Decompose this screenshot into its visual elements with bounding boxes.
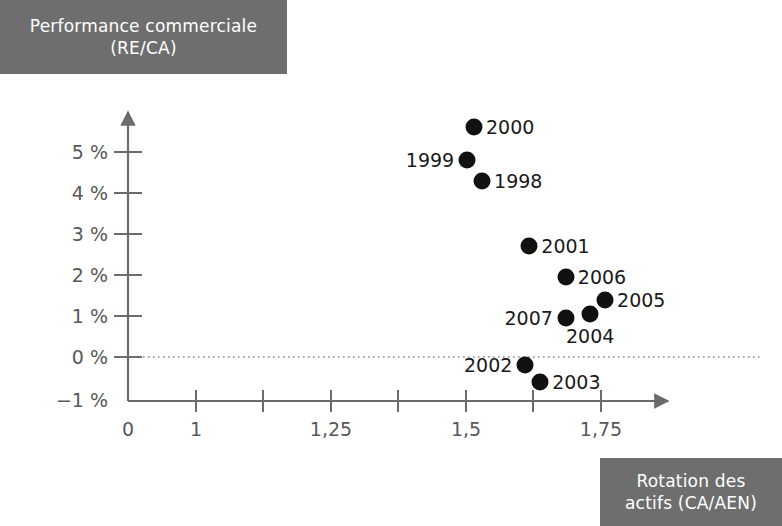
data-point-2003[interactable] bbox=[532, 373, 549, 390]
y-tick-label-1: 1 % bbox=[48, 305, 108, 327]
data-point-2006[interactable] bbox=[557, 269, 574, 286]
data-point-label-2001: 2001 bbox=[541, 235, 589, 257]
y-tick-label-4: 4 % bbox=[48, 182, 108, 204]
x-tick-label-1-25: 1,25 bbox=[310, 418, 352, 440]
data-point-label-2004: 2004 bbox=[566, 325, 614, 347]
data-point-2000[interactable] bbox=[465, 119, 482, 136]
scatter-plot: 5 % 4 % 3 % 2 % 1 % 0 % −1 % 0 1 1,25 1,… bbox=[0, 0, 782, 526]
x-tick-label-1: 1 bbox=[190, 418, 202, 440]
y-tick-label-5: 5 % bbox=[48, 141, 108, 163]
x-axis-title-line-1: Rotation des bbox=[636, 470, 745, 492]
x-tick-label-1-75: 1,75 bbox=[580, 418, 622, 440]
data-point-2001[interactable] bbox=[521, 238, 538, 255]
data-point-2004[interactable] bbox=[582, 305, 599, 322]
data-point-label-2007: 2007 bbox=[505, 307, 553, 329]
data-point-2005[interactable] bbox=[597, 291, 614, 308]
data-point-label-1999: 1999 bbox=[406, 149, 454, 171]
x-tick-label-0: 0 bbox=[122, 418, 134, 440]
data-point-1998[interactable] bbox=[474, 172, 491, 189]
y-tick-label-2: 2 % bbox=[48, 264, 108, 286]
y-tick-label-minus-1: −1 % bbox=[40, 389, 108, 411]
data-point-label-2000: 2000 bbox=[486, 116, 534, 138]
data-point-label-2003: 2003 bbox=[552, 371, 600, 393]
data-point-label-2005: 2005 bbox=[617, 289, 665, 311]
x-axis-title-line-2: actifs (CA/AEN) bbox=[625, 492, 757, 514]
data-point-2007[interactable] bbox=[557, 310, 574, 327]
x-axis-title-box: Rotation des actifs (CA/AEN) bbox=[600, 458, 782, 526]
y-tick-label-3: 3 % bbox=[48, 223, 108, 245]
y-tick-label-0: 0 % bbox=[48, 346, 108, 368]
data-point-label-1998: 1998 bbox=[494, 170, 542, 192]
x-tick-label-1-5: 1,5 bbox=[451, 418, 481, 440]
data-point-2002[interactable] bbox=[517, 357, 534, 374]
data-point-1999[interactable] bbox=[459, 152, 476, 169]
data-point-label-2002: 2002 bbox=[464, 354, 512, 376]
data-point-label-2006: 2006 bbox=[578, 266, 626, 288]
plot-axes-svg bbox=[0, 0, 782, 526]
